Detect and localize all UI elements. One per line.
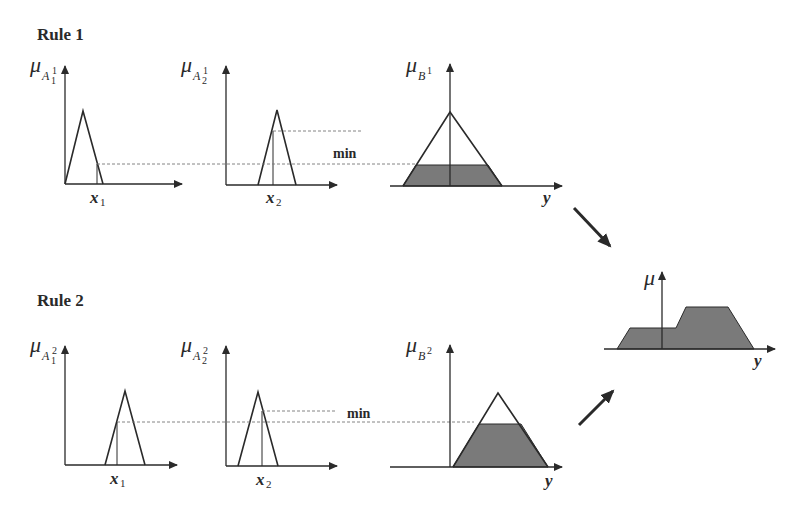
input-subscript: 2: [276, 196, 282, 208]
set-superscript: 1: [427, 65, 432, 76]
set-label: A: [192, 69, 201, 83]
membership-triangle: [238, 392, 278, 466]
axis-label: y: [752, 351, 762, 370]
mu-label: μ: [29, 52, 41, 77]
set-subscript: 2: [202, 75, 207, 86]
aggregated-output-area: [617, 307, 754, 349]
axis-label: y: [541, 188, 551, 207]
axis-label: y: [543, 471, 553, 490]
membership-triangle: [258, 110, 296, 185]
input-subscript: 1: [120, 477, 126, 489]
membership-triangle: [105, 391, 145, 465]
mu-label: μ: [643, 265, 655, 290]
set-superscript: 1: [203, 65, 208, 76]
mu-label: μ: [29, 332, 41, 357]
rule-2-consequent-plot: μ B 2 y: [390, 332, 562, 490]
clipped-output-area: [403, 165, 502, 186]
set-subscript: 1: [51, 355, 56, 366]
min-operator-label: min: [347, 406, 371, 421]
min-operator-label: min: [333, 146, 357, 161]
mu-label: μ: [405, 52, 417, 77]
set-superscript: 2: [52, 345, 57, 356]
rule-1-consequent-plot: μ B 1 y: [390, 52, 562, 207]
rule-1-antecedent-1-plot: μ A 1 1 x 1: [29, 52, 182, 208]
set-subscript: 2: [202, 355, 207, 366]
fuzzy-inference-diagram: Rule 1 μ A 1 1 x 1 μ A 2 1 min x: [0, 0, 798, 512]
input-subscript: 2: [266, 478, 272, 490]
set-label: A: [41, 69, 50, 83]
set-label: B: [418, 349, 426, 363]
rule-1-title: Rule 1: [37, 25, 84, 44]
set-label: A: [192, 349, 201, 363]
arrow-rule-1-to-aggregate: [574, 208, 610, 246]
set-subscript: 1: [51, 75, 56, 86]
rule-2: Rule 2 μ A 1 2 x 1 μ A 2 2 min x: [29, 291, 562, 490]
mu-label: μ: [180, 332, 192, 357]
mu-label: μ: [180, 52, 192, 77]
set-label: B: [418, 69, 426, 83]
set-label: A: [41, 349, 50, 363]
input-subscript: 1: [100, 196, 106, 208]
input-label: x: [109, 469, 119, 488]
set-superscript: 2: [203, 345, 208, 356]
input-label: x: [265, 188, 275, 207]
mu-label: μ: [405, 332, 417, 357]
rule-2-title: Rule 2: [37, 291, 84, 310]
rule-1-antecedent-2-plot: μ A 2 1 min x 2: [180, 52, 363, 208]
aggregate-output-plot: μ y: [604, 265, 775, 370]
input-label: x: [89, 188, 99, 207]
rule-2-antecedent-2-plot: μ A 2 2 min x 2: [180, 332, 371, 490]
rule-1: Rule 1 μ A 1 1 x 1 μ A 2 1 min x: [29, 25, 562, 208]
input-label: x: [255, 470, 265, 489]
set-superscript: 2: [427, 345, 432, 356]
set-superscript: 1: [52, 65, 57, 76]
arrow-rule-2-to-aggregate: [579, 391, 613, 425]
rule-2-antecedent-1-plot: μ A 1 2 x 1: [29, 332, 177, 489]
